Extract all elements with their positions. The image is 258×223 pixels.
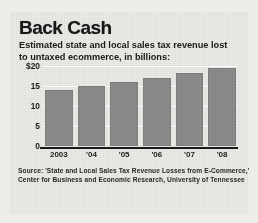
bar-slot	[45, 66, 73, 146]
chart-subtitle-line-2: to untaxed ecommerce, in billions:	[19, 52, 239, 64]
chart-figure: Back Cash Estimated state and local sale…	[0, 0, 258, 223]
x-axis-tick-label: '08	[208, 150, 236, 159]
source-line-1: Source: 'State and Local Sales Tax Reven…	[18, 167, 240, 176]
chart-subtitle-line-1: Estimated state and local sales tax reve…	[19, 40, 239, 52]
x-axis-tick-label: '04	[78, 150, 106, 159]
chart-title: Back Cash	[19, 18, 240, 38]
chart-subtitle: Estimated state and local sales tax reve…	[19, 40, 239, 63]
chart-panel: Back Cash Estimated state and local sale…	[10, 12, 248, 214]
x-axis-tick-label: '06	[143, 150, 171, 159]
bar-slot	[176, 66, 204, 146]
source-note: Source: 'State and Local Sales Tax Reven…	[18, 167, 240, 184]
bar-series	[43, 66, 238, 146]
x-axis-tick-label: 2003	[45, 150, 73, 159]
y-axis-tick-label: 15	[31, 81, 40, 91]
bar	[45, 90, 73, 146]
bar-slot	[110, 66, 138, 146]
bar-slot	[143, 66, 171, 146]
x-axis-labels: 2003'04'05'06'07'08	[43, 150, 238, 159]
x-axis-tick-label: '07	[176, 150, 204, 159]
bar	[208, 68, 236, 146]
source-line-2: Center for Business and Economic Researc…	[18, 176, 240, 185]
bar-slot	[78, 66, 106, 146]
y-axis-tick-label: 0	[35, 141, 40, 151]
bar	[143, 78, 171, 146]
bar-slot	[208, 66, 236, 146]
bar	[78, 86, 106, 146]
bar	[110, 82, 138, 146]
y-axis-tick-label: 10	[31, 101, 40, 111]
bar	[176, 73, 204, 146]
y-axis-tick-label: $20	[26, 61, 40, 71]
x-axis-tick-label: '05	[110, 150, 138, 159]
x-axis-line	[40, 147, 238, 149]
plot-area: 051015$20 2003'04'05'06'07'08	[18, 66, 240, 158]
y-axis: 051015$20	[18, 66, 42, 146]
y-axis-tick-label: 5	[35, 121, 40, 131]
